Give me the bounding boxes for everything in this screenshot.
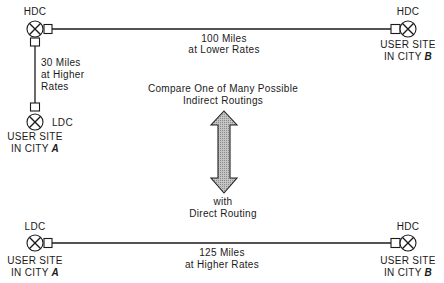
link-direct-rate: at Higher Rates — [185, 259, 259, 270]
city-b-office-label: HDC — [397, 6, 420, 17]
compare-text-2: Indirect Routings — [183, 95, 263, 106]
compare-text-1: Compare One of Many Possible — [148, 83, 298, 94]
direct-city-b-node-icon — [391, 235, 416, 251]
city-a-city-label: IN CITY A — [11, 143, 59, 154]
hub-office-label: HDC — [24, 6, 47, 17]
link-hub-b-distance: 100 Miles — [201, 33, 247, 44]
link-direct-distance: 125 Miles — [199, 247, 245, 258]
direct-city-b-city-label: IN CITY B — [384, 267, 432, 278]
city-a-node-icon — [27, 103, 43, 130]
link-a-hub-rate-1: at Higher — [41, 69, 85, 80]
direct-city-b-office-label: HDC — [397, 221, 420, 232]
hub-node-icon — [27, 21, 52, 46]
direct-city-a-city-label: IN CITY A — [11, 267, 59, 278]
compare-text-3: with — [213, 196, 233, 207]
direct-city-a-office-label: LDC — [25, 221, 46, 232]
link-a-hub-distance: 30 Miles — [41, 57, 81, 68]
city-a-site-label: USER SITE — [7, 131, 63, 142]
direct-city-b-site-label: USER SITE — [380, 255, 436, 266]
direct-city-a-site-label: USER SITE — [7, 255, 63, 266]
routing-comparison-diagram: HDC 30 Miles at Higher Rates LDC USER SI… — [0, 0, 444, 283]
direct-city-a-node-icon — [27, 235, 52, 251]
compare-text-4: Direct Routing — [189, 208, 257, 219]
city-b-site-label: USER SITE — [380, 39, 436, 50]
double-arrow-icon — [211, 111, 237, 193]
link-a-hub-rate-2: Rates — [41, 81, 69, 92]
city-a-office-label: LDC — [52, 117, 73, 128]
city-b-node-icon — [391, 21, 416, 37]
city-b-city-label: IN CITY B — [384, 51, 432, 62]
link-hub-b-rate: at Lower Rates — [188, 44, 259, 55]
